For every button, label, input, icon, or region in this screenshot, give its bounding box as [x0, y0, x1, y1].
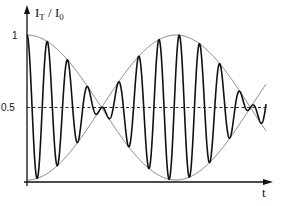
beat-signal-curve — [27, 35, 266, 179]
x-axis-label: t — [262, 185, 266, 200]
y-tick-1: 1 — [12, 30, 18, 41]
y-tick-0-5: 0.5 — [1, 102, 15, 113]
beat-intensity-chart: IT / I0 t 1 0.5 — [0, 0, 281, 206]
y-axis-arrow-icon — [24, 5, 30, 14]
y-axis-label: IT / I0 — [35, 5, 64, 22]
